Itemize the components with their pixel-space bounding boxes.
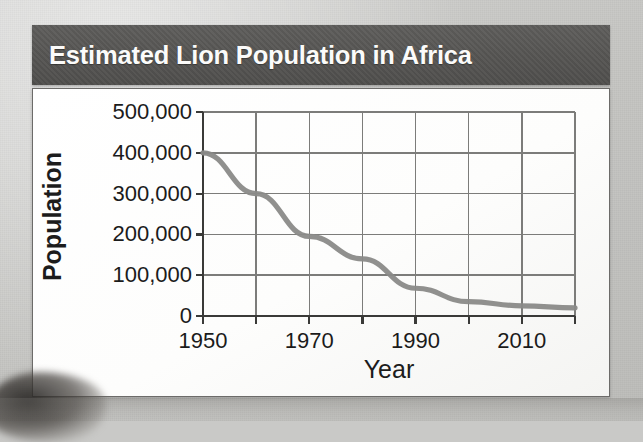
y-axis-title: Population xyxy=(38,117,67,317)
y-tick-label: 100,000 xyxy=(112,262,192,288)
y-tick-label: 300,000 xyxy=(112,181,192,207)
chart-title: Estimated Lion Population in Africa xyxy=(49,41,472,70)
photo-shadow-band xyxy=(0,398,643,421)
y-tick-label: 400,000 xyxy=(112,140,192,166)
x-tick-label: 2010 xyxy=(497,328,546,354)
x-axis-title: Year xyxy=(203,355,575,384)
x-tick-label: 1950 xyxy=(179,328,228,354)
y-tick-label: 0 xyxy=(180,303,192,329)
y-tick-label: 200,000 xyxy=(112,221,192,247)
chart-title-banner: Estimated Lion Population in Africa xyxy=(32,25,610,85)
y-tick-label: 500,000 xyxy=(112,99,192,125)
x-tick-label: 1990 xyxy=(391,328,440,354)
x-tick-label: 1970 xyxy=(285,328,334,354)
